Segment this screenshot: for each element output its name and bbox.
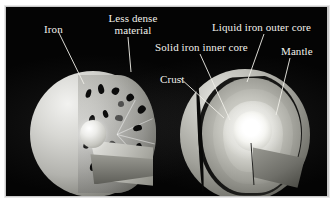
leader-crust xyxy=(180,78,224,118)
leader-less-dense xyxy=(128,37,131,72)
label-less-dense-material-line2: material xyxy=(102,25,164,37)
figure-root: Iron Less dense material Solid iron inne… xyxy=(0,0,336,209)
label-less-dense-material: Less dense material xyxy=(102,13,164,36)
label-iron: Iron xyxy=(44,24,63,36)
label-less-dense-material-line1: Less dense xyxy=(102,13,164,25)
label-crust: Crust xyxy=(160,74,184,86)
leader-liquid-outer-core xyxy=(247,34,264,82)
label-mantle: Mantle xyxy=(281,46,313,58)
figure-panel: Iron Less dense material Solid iron inne… xyxy=(6,7,327,196)
label-liquid-iron-outer-core: Liquid iron outer core xyxy=(212,22,311,34)
leader-mantle xyxy=(276,58,290,115)
leader-iron xyxy=(58,31,84,84)
label-solid-iron-inner-core: Solid iron inner core xyxy=(155,42,248,54)
